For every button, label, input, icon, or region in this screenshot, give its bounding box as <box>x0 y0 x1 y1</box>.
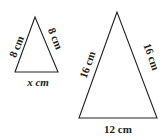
small-left-side-label: 8 cm <box>7 34 26 59</box>
small-right-side-label: 8 cm <box>46 26 65 51</box>
similar-triangles-diagram: 8 cm 8 cm x cm 16 cm 16 cm 12 cm <box>0 0 165 140</box>
large-right-side-label: 16 cm <box>141 42 162 72</box>
small-triangle: 8 cm 8 cm x cm <box>7 17 66 88</box>
large-base-label: 12 cm <box>104 123 132 135</box>
large-triangle: 16 cm 16 cm 12 cm <box>77 12 162 135</box>
small-base-label: x cm <box>26 76 49 88</box>
